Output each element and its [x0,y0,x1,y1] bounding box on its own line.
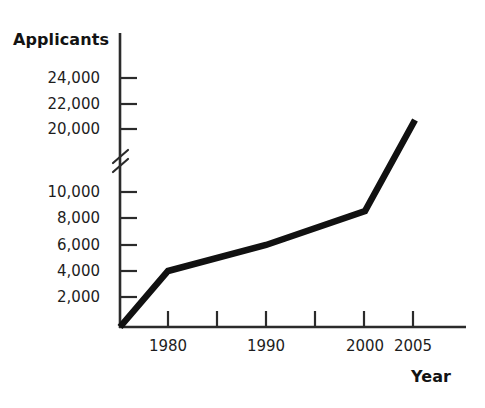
x-axis-title: Year [411,367,451,386]
y-tick-label-2000: 2,000 [14,288,100,306]
y-tick-label-10000: 10,000 [14,183,100,201]
y-tick-label-22000: 22,000 [14,95,100,113]
y-tick-label-24000: 24,000 [14,69,100,87]
applicants-line-chart: Applicants Year 24,000 22,000 20,000 10,… [0,0,485,408]
y-axis-title: Applicants [13,30,109,49]
y-tick-label-4000: 4,000 [14,262,100,280]
x-tick-label-1990: 1990 [236,337,296,355]
y-tick-label-20000: 20,000 [14,120,100,138]
y-tick-label-6000: 6,000 [14,236,100,254]
applicants-data-line [120,120,415,327]
x-tick-marks [168,311,413,327]
y-tick-marks [120,78,137,297]
y-tick-label-8000: 8,000 [14,209,100,227]
x-tick-label-1980: 1980 [138,337,198,355]
x-tick-label-2005: 2005 [383,337,443,355]
